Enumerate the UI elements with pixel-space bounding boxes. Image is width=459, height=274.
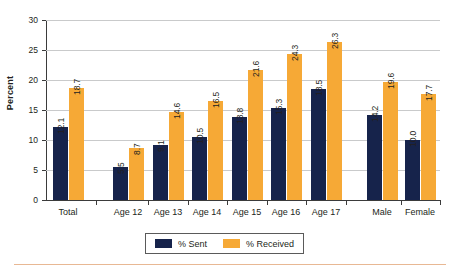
y-tick-mark xyxy=(42,20,46,21)
bar-recv-age-14 xyxy=(208,101,223,200)
bar-sent-age-13 xyxy=(153,145,168,200)
bar-value-label: 12.1 xyxy=(56,118,66,134)
bar-recv-male xyxy=(383,82,398,200)
x-tick-label: Age 12 xyxy=(114,207,143,217)
bar-value-label: 18.5 xyxy=(314,80,324,96)
y-tick-label: 15 xyxy=(16,105,38,115)
x-tick-label: Age 14 xyxy=(193,207,222,217)
legend-label-sent: % Sent xyxy=(178,239,207,249)
x-tick-mark xyxy=(306,200,307,205)
x-tick-mark xyxy=(96,200,97,205)
bar-sent-age-14 xyxy=(192,137,207,200)
x-tick-label: Total xyxy=(58,207,77,217)
x-tick-label: Female xyxy=(405,207,435,217)
y-tick-label: 0 xyxy=(16,195,38,205)
x-tick-mark xyxy=(148,200,149,205)
bar-sent-total xyxy=(53,127,68,200)
x-tick-label: Age 15 xyxy=(233,207,262,217)
bar-sent-female xyxy=(405,140,420,200)
y-tick-label: 5 xyxy=(16,165,38,175)
y-tick-mark xyxy=(42,170,46,171)
bar-value-label: 21.6 xyxy=(251,61,261,77)
x-tick-mark xyxy=(267,200,268,205)
bar-value-label: 10.0 xyxy=(408,131,418,147)
bar-value-label: 15.3 xyxy=(274,99,284,115)
gridline xyxy=(46,50,440,51)
bar-recv-age-17 xyxy=(327,42,342,200)
bar-value-label: 9.1 xyxy=(156,141,166,153)
bar-value-label: 8.7 xyxy=(132,143,142,155)
legend-label-received: % Received xyxy=(246,239,294,249)
bar-value-label: 24.3 xyxy=(290,45,300,61)
bar-recv-age-12 xyxy=(129,148,144,200)
y-tick-label: 25 xyxy=(16,45,38,55)
gridline xyxy=(46,80,440,81)
bar-value-label: 14.2 xyxy=(370,106,380,122)
bar-sent-male xyxy=(367,115,382,200)
x-tick-label: Age 13 xyxy=(154,207,183,217)
y-tick-mark xyxy=(42,80,46,81)
bar-recv-age-16 xyxy=(287,54,302,200)
bar-value-label: 5.5 xyxy=(116,162,126,174)
bar-value-label: 14.6 xyxy=(172,103,182,119)
footer-rule xyxy=(14,264,446,265)
x-tick-mark xyxy=(440,200,441,205)
bar-chart: Percent 051015202530 TotalAge 12Age 13Ag… xyxy=(0,0,459,274)
bar-recv-total xyxy=(69,88,84,200)
bar-recv-age-13 xyxy=(169,112,184,200)
y-tick-mark xyxy=(42,110,46,111)
y-tick-mark xyxy=(42,50,46,51)
y-tick-label: 30 xyxy=(16,15,38,25)
bar-value-label: 10.5 xyxy=(195,128,205,144)
x-tick-label: Age 16 xyxy=(272,207,301,217)
y-tick-label: 10 xyxy=(16,135,38,145)
bar-recv-age-15 xyxy=(248,70,263,200)
bar-value-label: 17.7 xyxy=(424,85,434,101)
x-tick-mark xyxy=(346,200,347,205)
bar-sent-age-16 xyxy=(271,108,286,200)
x-tick-label: Male xyxy=(372,207,392,217)
chart-legend: % Sent % Received xyxy=(145,233,304,254)
legend-item-received: % Received xyxy=(223,239,294,249)
bar-value-label: 16.5 xyxy=(211,92,221,108)
bar-value-label: 18.7 xyxy=(72,79,82,95)
legend-item-sent: % Sent xyxy=(155,239,207,249)
y-tick-mark xyxy=(42,140,46,141)
x-tick-mark xyxy=(188,200,189,205)
bar-recv-female xyxy=(421,94,436,200)
y-axis-title: Percent xyxy=(5,63,15,123)
x-tick-mark xyxy=(401,200,402,205)
bar-value-label: 19.6 xyxy=(386,73,396,89)
bar-value-label: 26.3 xyxy=(330,33,340,49)
gridline xyxy=(46,20,440,21)
y-tick-label: 20 xyxy=(16,75,38,85)
bar-sent-age-17 xyxy=(311,89,326,200)
bar-sent-age-15 xyxy=(232,117,247,200)
x-tick-mark xyxy=(227,200,228,205)
legend-swatch-sent xyxy=(155,239,172,248)
y-tick-mark xyxy=(42,200,46,201)
x-axis-line xyxy=(46,200,440,201)
bar-value-label: 13.8 xyxy=(235,108,245,124)
legend-swatch-received xyxy=(223,239,240,248)
x-tick-label: Age 17 xyxy=(312,207,341,217)
